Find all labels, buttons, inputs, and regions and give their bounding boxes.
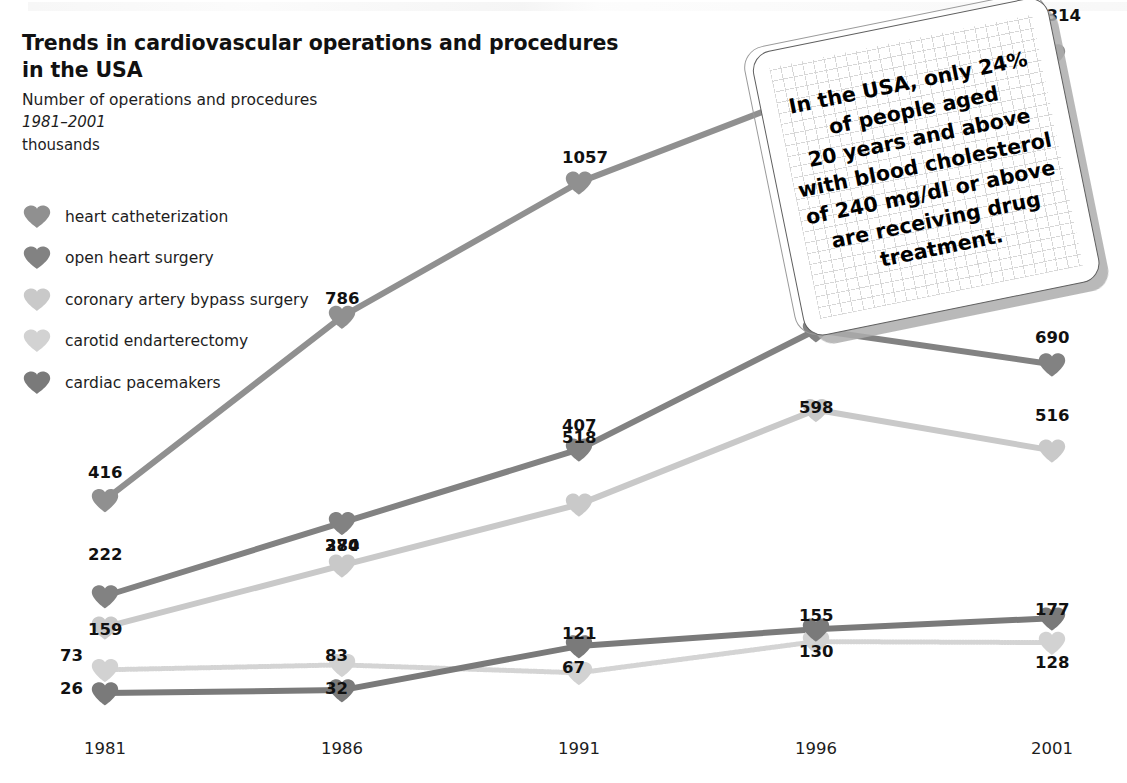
data-point-value: 177 — [1035, 602, 1069, 619]
data-point-value: 121 — [562, 626, 596, 643]
x-axis-tick-1996: 1996 — [795, 739, 837, 758]
data-point-value: 407 — [562, 418, 596, 435]
data-point-marker — [329, 512, 355, 535]
data-point-value: 67 — [562, 660, 585, 677]
callout-note: In the USA, only 24%of people aged20 yea… — [775, 22, 1105, 352]
x-axis-tick-1991: 1991 — [558, 739, 600, 758]
data-point-marker — [329, 555, 355, 578]
data-point-value: 222 — [88, 547, 122, 564]
data-point-value: 159 — [88, 622, 122, 639]
x-axis-tick-1981: 1981 — [84, 739, 126, 758]
data-point-marker — [92, 585, 118, 608]
x-axis-tick-1986: 1986 — [321, 739, 363, 758]
data-point-value: 516 — [1035, 408, 1069, 425]
data-point-marker — [1039, 632, 1065, 655]
x-axis-tick-2001: 2001 — [1031, 739, 1073, 758]
data-point-marker — [566, 172, 592, 195]
data-point-marker — [566, 494, 592, 517]
callout-text: In the USA, only 24%of people aged20 yea… — [749, 0, 1100, 337]
data-point-value: 83 — [325, 648, 348, 665]
data-point-value: 32 — [325, 681, 348, 698]
series-line-1 — [105, 330, 1052, 596]
data-point-marker — [1039, 353, 1065, 376]
data-point-value: 26 — [60, 681, 83, 698]
data-point-value: 73 — [60, 648, 83, 665]
chart-figure: Trends in cardiovascular operations and … — [0, 0, 1127, 783]
data-point-marker — [92, 659, 118, 682]
data-point-value: 128 — [1035, 655, 1069, 672]
data-point-value: 130 — [799, 644, 833, 661]
data-point-value: 416 — [88, 465, 122, 482]
data-point-value: 598 — [799, 400, 833, 417]
data-point-value: 284 — [325, 538, 359, 555]
data-point-value: 155 — [799, 608, 833, 625]
data-point-marker — [1039, 440, 1065, 463]
data-point-value: 1057 — [562, 150, 608, 167]
data-point-marker — [92, 682, 118, 705]
data-point-marker — [92, 489, 118, 512]
data-point-value: 786 — [325, 291, 359, 308]
